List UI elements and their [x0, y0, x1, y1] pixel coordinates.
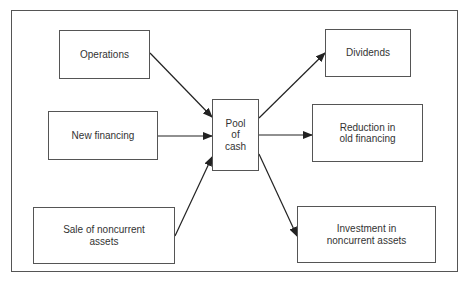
arrow-pool-to-investment: [259, 154, 297, 236]
box-investment: Investment in noncurrent assets: [297, 206, 436, 263]
box-new-financing-label: New financing: [72, 130, 135, 142]
box-operations: Operations: [59, 30, 150, 79]
box-sale-noncurrent: Sale of noncurrent assets: [33, 207, 175, 264]
box-operations-label: Operations: [80, 49, 129, 61]
box-reduction: Reduction in old financing: [312, 104, 423, 162]
box-reduction-label: Reduction in old financing: [339, 122, 395, 145]
arrow-operations-to-pool: [150, 53, 212, 117]
box-investment-label: Investment in noncurrent assets: [327, 223, 407, 246]
box-sale-noncurrent-label: Sale of noncurrent assets: [63, 224, 145, 247]
box-new-financing: New financing: [48, 111, 158, 160]
box-dividends: Dividends: [325, 29, 411, 77]
box-pool-of-cash: Pool of cash: [212, 99, 259, 171]
box-pool-label: Pool of cash: [225, 118, 246, 153]
box-dividends-label: Dividends: [346, 47, 390, 59]
arrow-sale-to-pool: [175, 157, 212, 236]
